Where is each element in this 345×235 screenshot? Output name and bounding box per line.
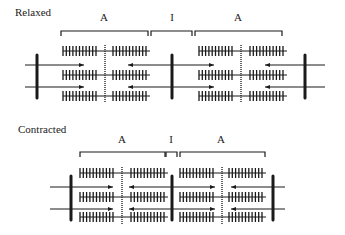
- arrow-head-icon: [210, 185, 215, 189]
- arrow-head-icon: [129, 207, 134, 211]
- arrow-head-icon: [210, 207, 215, 211]
- arrow-head-icon: [265, 85, 270, 89]
- arrow-head-icon: [231, 185, 236, 189]
- arrow-head-icon: [209, 85, 214, 89]
- arrow-head-icon: [231, 207, 236, 211]
- arrow-head-icon: [79, 63, 84, 67]
- bracket: [180, 152, 265, 157]
- arrow-head-icon: [108, 207, 113, 211]
- arrow-head-icon: [209, 63, 214, 67]
- arrow-head-icon: [265, 63, 270, 67]
- arrow-head-icon: [108, 185, 113, 189]
- arrow-head-icon: [128, 85, 133, 89]
- bracket: [80, 152, 165, 157]
- bracket: [166, 152, 177, 157]
- bracket: [195, 31, 282, 36]
- arrow-head-icon: [79, 85, 84, 89]
- bracket: [61, 31, 148, 36]
- arrow-head-icon: [128, 63, 133, 67]
- bracket: [151, 31, 192, 36]
- arrow-head-icon: [129, 185, 134, 189]
- sarcomere-diagram: [0, 0, 345, 235]
